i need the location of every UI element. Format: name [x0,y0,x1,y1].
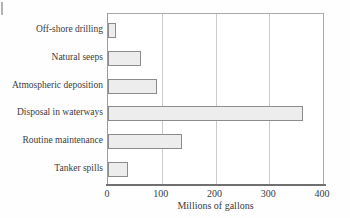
category-label-tanker-spills: Tanker spills [0,161,103,176]
x-tick-label-0: 0 [105,188,110,199]
category-label-natural-seeps: Natural seeps [0,50,103,65]
bar-disposal-in-waterways [108,106,303,121]
bar-natural-seeps [108,51,141,66]
x-axis-title: Millions of gallons [107,200,324,211]
chart-canvas: Off-shore drillingNatural seepsAtmospher… [0,0,350,218]
gridline-200 [216,14,217,185]
x-tick-label-400: 400 [315,188,330,199]
category-label-off-shore-drilling: Off-shore drilling [0,22,103,37]
gridline-100 [162,14,163,185]
x-axis-line [106,184,326,186]
x-tick-label-100: 100 [153,188,168,199]
x-tick-label-300: 300 [261,188,276,199]
page-edge-artifact [1,2,3,15]
plot-area [107,13,324,185]
bar-off-shore-drilling [108,23,116,38]
gridline-300 [269,14,270,185]
x-tick-label-200: 200 [207,188,222,199]
bar-routine-maintenance [108,134,182,149]
category-label-routine-maintenance: Routine maintenance [0,133,103,148]
category-label-disposal-in-waterways: Disposal in waterways [0,105,103,120]
bar-tanker-spills [108,162,128,177]
category-label-atmospheric-deposition: Atmospheric deposition [0,78,103,93]
bar-atmospheric-deposition [108,79,157,94]
